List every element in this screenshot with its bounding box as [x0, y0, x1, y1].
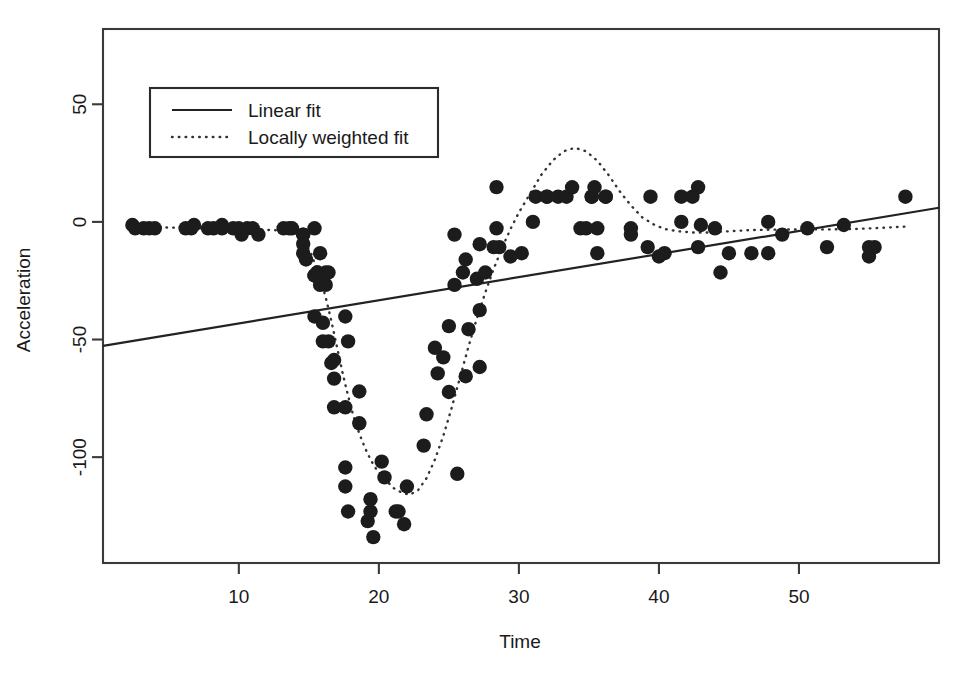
data-point [417, 438, 431, 452]
data-point [321, 265, 335, 279]
data-point [473, 360, 487, 374]
data-point [459, 369, 473, 383]
data-point [461, 322, 475, 336]
data-point [447, 278, 461, 292]
data-point [624, 221, 638, 235]
data-point [761, 215, 775, 229]
data-point [775, 227, 789, 241]
data-point [338, 309, 352, 323]
data-point [459, 252, 473, 266]
data-point [456, 265, 470, 279]
data-point [321, 334, 335, 348]
x-tick-label-20: 20 [368, 586, 389, 607]
data-point [375, 454, 389, 468]
y-tick-label-50: 50 [69, 94, 90, 115]
data-point [316, 316, 330, 330]
data-point [599, 190, 613, 204]
x-tick-label-30: 30 [508, 586, 529, 607]
x-tick-label-40: 40 [648, 586, 669, 607]
data-point [590, 246, 604, 260]
data-point [431, 366, 445, 380]
data-point [761, 246, 775, 260]
data-point [489, 180, 503, 194]
y-axis-title: Acceleration [13, 248, 34, 353]
data-point [447, 227, 461, 241]
data-point [327, 353, 341, 367]
data-points-layer [125, 180, 912, 544]
data-point [867, 240, 881, 254]
legend-label-linear-fit: Linear fit [248, 100, 322, 121]
data-point [341, 334, 355, 348]
data-point [489, 221, 503, 235]
data-point [251, 227, 265, 241]
scatter-plot-figure: 1020304050 500-50-100 Linear fit Locally… [0, 0, 961, 678]
data-point [400, 479, 414, 493]
data-point [515, 246, 529, 260]
x-axis-ticks [239, 563, 799, 574]
y-axis-ticks [92, 104, 103, 457]
data-point [442, 319, 456, 333]
plot-canvas: 1020304050 500-50-100 Linear fit Locally… [0, 0, 961, 678]
data-point [837, 218, 851, 232]
data-point [565, 180, 579, 194]
data-point [820, 240, 834, 254]
data-point [327, 371, 341, 385]
data-point [478, 265, 492, 279]
data-point [148, 221, 162, 235]
x-axis-title: Time [499, 631, 541, 652]
x-axis-tick-labels: 1020304050 [228, 586, 809, 607]
data-point [708, 221, 722, 235]
data-point [800, 221, 814, 235]
data-point [590, 221, 604, 235]
x-tick-label-10: 10 [228, 586, 249, 607]
data-point [338, 460, 352, 474]
data-point [299, 252, 313, 266]
y-tick-label--100: -100 [69, 438, 90, 476]
data-point [898, 190, 912, 204]
data-point [694, 218, 708, 232]
data-point [713, 265, 727, 279]
data-point [473, 303, 487, 317]
data-point [187, 218, 201, 232]
data-point [526, 215, 540, 229]
data-point [352, 384, 366, 398]
data-point [492, 240, 506, 254]
legend-label-locally-weighted-fit: Locally weighted fit [248, 127, 409, 148]
data-point [352, 416, 366, 430]
data-point [691, 180, 705, 194]
data-point [397, 517, 411, 531]
data-point [363, 492, 377, 506]
data-point [391, 504, 405, 518]
data-point [674, 215, 688, 229]
data-point [338, 479, 352, 493]
data-point [341, 504, 355, 518]
data-point [296, 237, 310, 251]
y-tick-label-0: 0 [69, 217, 90, 228]
data-point [657, 246, 671, 260]
y-tick-label--50: -50 [69, 326, 90, 353]
data-point [377, 470, 391, 484]
data-point [473, 237, 487, 251]
data-point [313, 246, 327, 260]
data-point [744, 246, 758, 260]
y-axis-tick-labels: 500-50-100 [69, 94, 90, 476]
data-point [366, 530, 380, 544]
legend[interactable]: Linear fit Locally weighted fit [150, 88, 438, 157]
data-point [319, 278, 333, 292]
data-point [436, 350, 450, 364]
data-point [419, 407, 433, 421]
data-point [338, 400, 352, 414]
data-point [643, 190, 657, 204]
data-point [722, 246, 736, 260]
data-point [587, 180, 601, 194]
data-point [450, 467, 464, 481]
data-point [442, 385, 456, 399]
x-tick-label-50: 50 [788, 586, 809, 607]
data-point [307, 221, 321, 235]
data-point [363, 504, 377, 518]
data-point [691, 240, 705, 254]
data-point [641, 240, 655, 254]
